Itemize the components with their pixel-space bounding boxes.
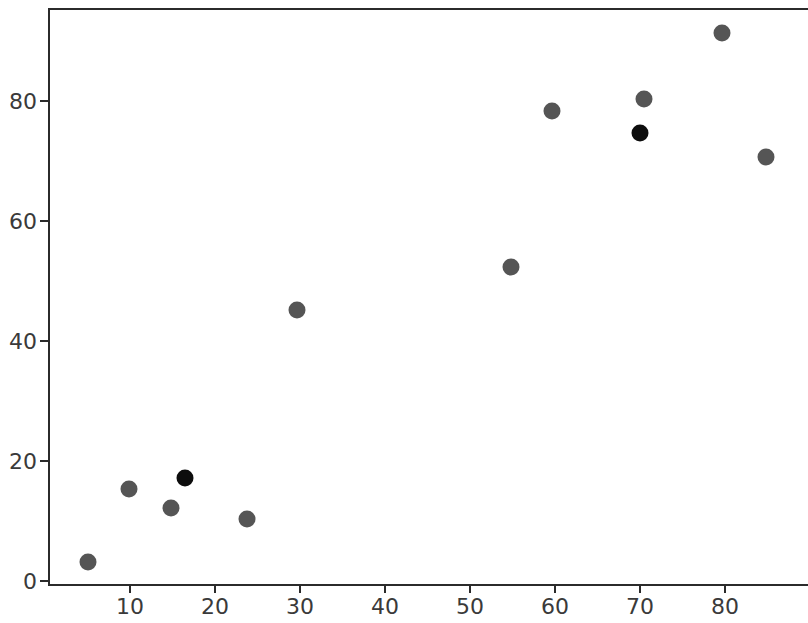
data-point[interactable] [502,259,519,276]
data-point[interactable] [636,90,653,107]
x-axis-tick-mark [639,584,641,593]
y-axis-tick-label: 0 [23,569,37,594]
x-axis-tick-mark [214,584,216,593]
y-axis-tick-mark [40,460,49,462]
y-axis-tick-label: 40 [9,329,37,354]
y-axis-tick-label: 20 [9,449,37,474]
x-axis-tick-mark [469,584,471,593]
x-axis-tick-label: 80 [711,594,739,619]
data-point[interactable] [162,499,179,516]
x-axis-tick-mark [724,584,726,593]
x-axis-tick-label: 40 [371,594,399,619]
x-axis-tick-label: 70 [626,594,654,619]
y-axis-tick-mark [40,100,49,102]
x-axis-tick-mark [384,584,386,593]
data-point[interactable] [713,24,730,41]
x-axis-tick-label: 60 [541,594,569,619]
data-point[interactable] [239,511,256,528]
y-axis-tick-mark [40,340,49,342]
plot-area [48,8,808,586]
x-axis-tick-mark [299,584,301,593]
x-axis-tick-label: 10 [116,594,144,619]
y-axis-tick-label: 60 [9,209,37,234]
x-axis-tick-label: 30 [286,594,314,619]
y-axis-tick-mark [40,220,49,222]
data-point-highlighted[interactable] [632,124,649,141]
data-point[interactable] [757,149,774,166]
x-axis-tick-mark [129,584,131,593]
data-point[interactable] [288,302,305,319]
data-point[interactable] [544,102,561,119]
data-point[interactable] [121,481,138,498]
x-axis-tick-label: 20 [201,594,229,619]
y-axis-tick-mark [40,580,49,582]
y-axis-tick-label: 80 [9,89,37,114]
data-point-highlighted[interactable] [177,469,194,486]
x-axis-tick-label: 50 [456,594,484,619]
x-axis-tick-mark [554,584,556,593]
data-point[interactable] [79,553,96,570]
